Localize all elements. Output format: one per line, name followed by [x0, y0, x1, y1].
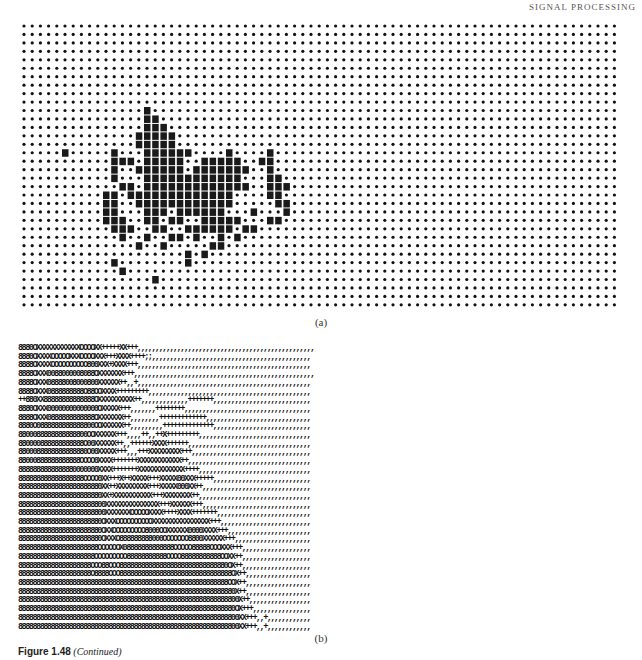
figure-a-character-image [18, 20, 622, 312]
figure-caption-note: (Continued) [73, 646, 121, 657]
figure-caption: Figure 1.48 (Continued) [18, 646, 122, 657]
subfigure-label-a: (a) [0, 316, 642, 328]
running-head: SIGNAL PROCESSING [529, 2, 636, 12]
subfigure-label-b: (b) [0, 632, 642, 644]
figure-number: Figure 1.48 [18, 646, 71, 657]
figure-b-character-image: 8880OXXXXXXXXXXXXOOOOXX+++++XX+++,,,,,,,… [18, 344, 314, 631]
